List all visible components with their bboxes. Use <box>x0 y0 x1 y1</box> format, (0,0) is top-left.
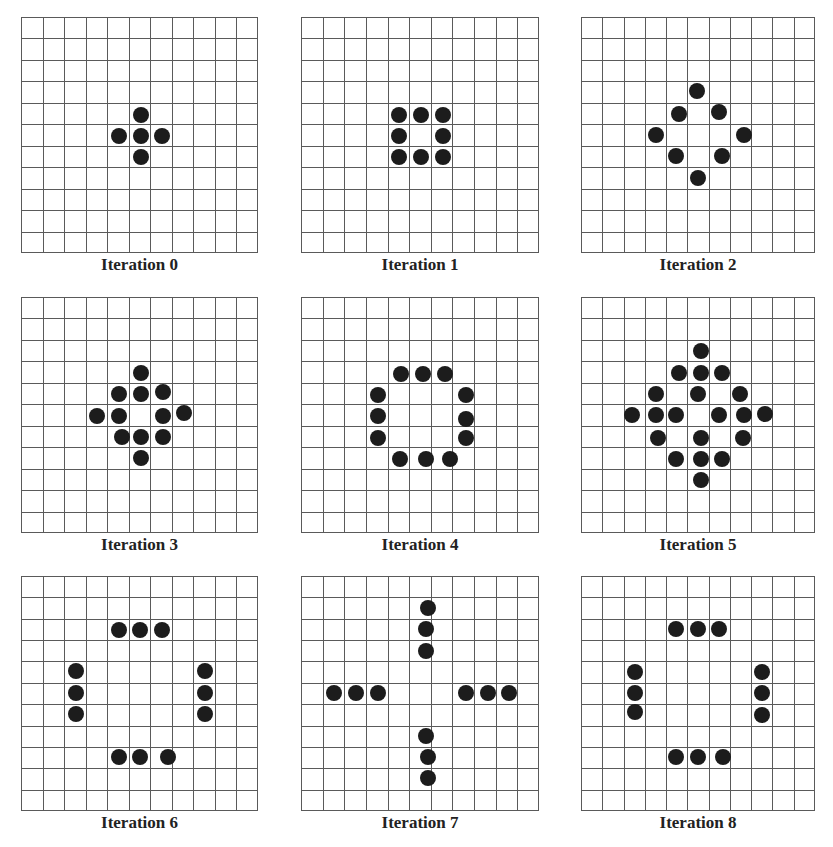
grid-line-vertical <box>431 18 432 252</box>
cell-dot <box>111 408 127 424</box>
cell-dot <box>420 600 436 616</box>
grid-line-vertical <box>517 577 518 810</box>
grid-line-vertical <box>344 18 345 252</box>
grid-line-horizontal <box>582 747 814 748</box>
grid-line-vertical <box>129 18 130 252</box>
grid-line-vertical <box>215 577 216 810</box>
cell-dot <box>736 407 752 423</box>
grid-line-vertical <box>107 298 108 532</box>
cell-dot <box>133 107 149 123</box>
grid-line-horizontal <box>302 167 538 168</box>
grid-line-horizontal <box>22 81 257 82</box>
grid-line-horizontal <box>582 189 814 190</box>
grid-line-vertical <box>772 577 773 810</box>
grid-line-horizontal <box>22 167 257 168</box>
grid <box>581 297 815 533</box>
grid-line-vertical <box>709 18 710 252</box>
cell-dot <box>418 728 434 744</box>
grid-line-horizontal <box>22 661 257 662</box>
grid-line-horizontal <box>582 60 814 61</box>
grid-line-vertical <box>64 18 65 252</box>
grid-line-vertical <box>602 577 603 810</box>
grid <box>581 576 815 811</box>
cell-dot <box>370 408 386 424</box>
grid-line-horizontal <box>302 340 538 341</box>
grid-line-horizontal <box>302 790 538 791</box>
grid-line-horizontal <box>302 768 538 769</box>
grid-line-horizontal <box>302 469 538 470</box>
grid-line-vertical <box>496 18 497 252</box>
grid-line-vertical <box>709 298 710 532</box>
cell-dot <box>458 387 474 403</box>
grid-line-vertical <box>129 577 130 810</box>
cell-dot <box>68 663 84 679</box>
grid-line-vertical <box>687 577 688 810</box>
cell-dot <box>735 430 751 446</box>
grid-line-vertical <box>645 577 646 810</box>
grid-line-horizontal <box>302 404 538 405</box>
panel-iteration-5: Iteration 5 <box>581 297 815 563</box>
cell-dot <box>435 149 451 165</box>
grid-line-vertical <box>772 18 773 252</box>
cell-dot <box>391 128 407 144</box>
grid-line-horizontal <box>302 361 538 362</box>
grid-line-horizontal <box>302 210 538 211</box>
cell-dot <box>420 749 436 765</box>
grid-line-vertical <box>474 577 475 810</box>
grid-line-vertical <box>64 298 65 532</box>
cell-dot <box>693 451 709 467</box>
grid-line-horizontal <box>302 103 538 104</box>
grid-line-vertical <box>107 577 108 810</box>
grid-line-horizontal <box>302 383 538 384</box>
cell-dot <box>111 128 127 144</box>
cell-dot <box>671 365 687 381</box>
grid <box>21 576 258 811</box>
grid-line-vertical <box>323 18 324 252</box>
cell-dot <box>689 83 705 99</box>
grid <box>21 297 258 533</box>
cell-dot <box>627 685 643 701</box>
panel-label: Iteration 6 <box>21 813 258 833</box>
panel-iteration-3: Iteration 3 <box>21 297 258 563</box>
cell-dot <box>415 366 431 382</box>
cell-dot <box>155 408 171 424</box>
grid-line-horizontal <box>302 81 538 82</box>
cell-dot <box>418 451 434 467</box>
cell-dot <box>111 749 127 765</box>
grid-line-vertical <box>43 18 44 252</box>
grid-line-vertical <box>409 18 410 252</box>
cell-dot <box>668 451 684 467</box>
grid-line-vertical <box>366 298 367 532</box>
panel-label: Iteration 7 <box>301 813 539 833</box>
grid-line-horizontal <box>302 597 538 598</box>
grid-line-vertical <box>366 18 367 252</box>
cell-dot <box>370 685 386 701</box>
grid-line-horizontal <box>582 661 814 662</box>
grid-line-horizontal <box>22 469 257 470</box>
grid-line-vertical <box>86 18 87 252</box>
grid-line-vertical <box>452 298 453 532</box>
panel-iteration-6: Iteration 6 <box>21 576 258 841</box>
grid-line-vertical <box>107 18 108 252</box>
cell-dot <box>715 749 731 765</box>
cell-dot <box>711 104 727 120</box>
cell-dot <box>671 106 687 122</box>
panel-label: Iteration 5 <box>581 535 815 555</box>
cell-dot <box>690 386 706 402</box>
grid-line-horizontal <box>582 38 814 39</box>
grid-line-horizontal <box>22 340 257 341</box>
grid-line-vertical <box>150 298 151 532</box>
cell-dot <box>693 430 709 446</box>
grid-line-horizontal <box>302 747 538 748</box>
grid-line-horizontal <box>582 704 814 705</box>
grid-line-vertical <box>366 577 367 810</box>
grid-line-horizontal <box>22 683 257 684</box>
grid-line-vertical <box>517 18 518 252</box>
grid-line-vertical <box>236 18 237 252</box>
cell-dot <box>133 386 149 402</box>
grid-line-vertical <box>431 298 432 532</box>
grid <box>581 17 815 253</box>
grid-line-horizontal <box>22 124 257 125</box>
grid-line-vertical <box>496 577 497 810</box>
cell-dot <box>197 663 213 679</box>
